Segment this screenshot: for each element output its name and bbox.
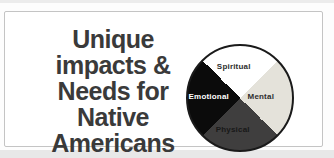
slide-title: Unique impacts & Needs for Native Americ…	[27, 23, 199, 158]
page-top-strip	[0, 0, 334, 3]
title-line: Unique	[27, 26, 199, 52]
slide-card: Unique impacts & Needs for Native Americ…	[4, 11, 323, 147]
pie-slice-label-mental: Mental	[248, 91, 275, 100]
title-line: impacts &	[27, 52, 199, 78]
pie-slice-label-emotional: Emotional	[189, 91, 229, 100]
title-line: Needs for	[27, 78, 199, 104]
title-line: Americans	[27, 130, 199, 156]
title-line: Native	[27, 104, 199, 130]
pie-slice-label-spiritual: Spiritual	[217, 61, 251, 70]
medicine-wheel-pie-chart: Spiritual Mental Physical Emotional	[186, 44, 294, 152]
pie-slice-label-physical: Physical	[216, 125, 250, 134]
